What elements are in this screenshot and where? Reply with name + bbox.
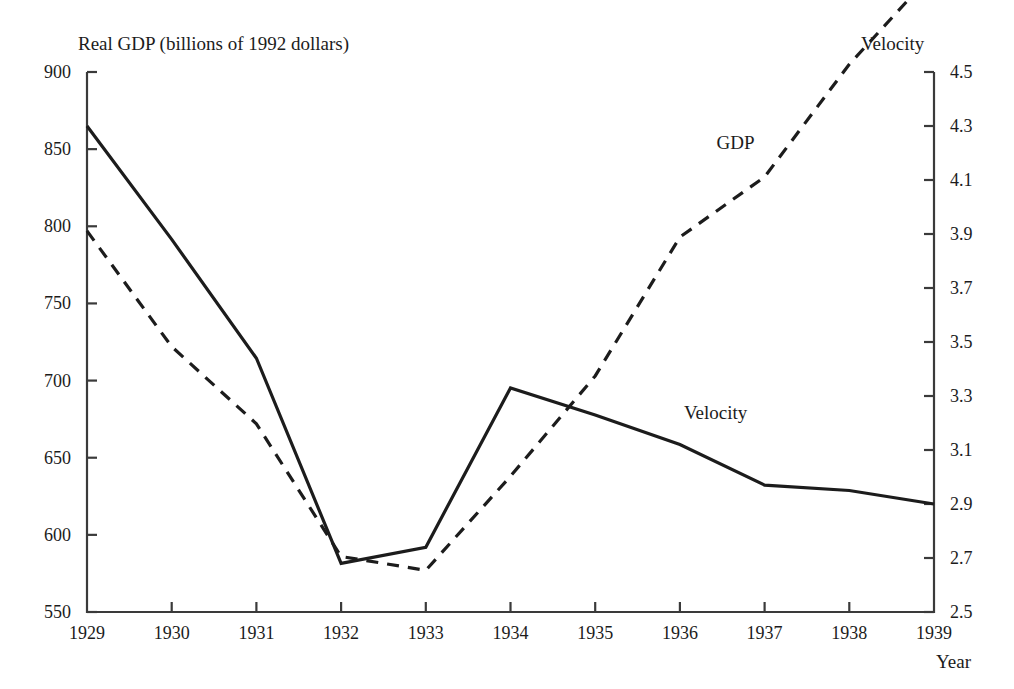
right-axis-tick-label: 2.9 <box>950 495 973 513</box>
left-axis-tick-label: 850 <box>0 140 71 158</box>
left-axis-tick-label: 900 <box>0 63 71 81</box>
plot-canvas <box>0 0 1014 689</box>
right-axis-tick-label: 3.5 <box>950 333 973 351</box>
series-line-gdp <box>87 0 934 570</box>
x-axis-tick-label: 1929 <box>69 624 105 642</box>
left-axis-ticks <box>87 72 97 612</box>
x-axis-tick-label: 1936 <box>662 624 698 642</box>
x-axis-tick-label: 1938 <box>831 624 867 642</box>
series-annotation-velocity: Velocity <box>684 403 747 422</box>
x-axis-tick-label: 1931 <box>238 624 274 642</box>
x-axis-title: Year <box>936 652 971 671</box>
x-axis-tick-label: 1932 <box>323 624 359 642</box>
x-axis-tick-label: 1935 <box>577 624 613 642</box>
left-axis-tick-label: 600 <box>0 526 71 544</box>
left-axis-tick-label: 700 <box>0 372 71 390</box>
right-axis-tick-label: 3.1 <box>950 441 973 459</box>
x-axis-tick-label: 1939 <box>916 624 952 642</box>
right-axis-tick-label: 4.5 <box>950 63 973 81</box>
x-axis-ticks <box>172 602 850 612</box>
series-line-velocity <box>87 126 934 563</box>
right-axis-tick-label: 4.3 <box>950 117 973 135</box>
right-axis-tick-label: 2.5 <box>950 603 973 621</box>
axis-frame <box>87 72 934 612</box>
x-axis-tick-label: 1937 <box>747 624 783 642</box>
left-axis-tick-label: 800 <box>0 217 71 235</box>
left-axis-tick-label: 750 <box>0 294 71 312</box>
x-axis-tick-label: 1934 <box>493 624 529 642</box>
chart-figure: Real GDP (billions of 1992 dollars) Velo… <box>0 0 1014 689</box>
right-axis-tick-label: 2.7 <box>950 549 973 567</box>
x-axis-tick-label: 1933 <box>408 624 444 642</box>
x-axis-tick-label: 1930 <box>154 624 190 642</box>
right-axis-ticks <box>924 72 934 612</box>
right-axis-title: Velocity <box>861 34 924 53</box>
left-axis-tick-label: 550 <box>0 603 71 621</box>
right-axis-tick-label: 3.3 <box>950 387 973 405</box>
left-axis-tick-label: 650 <box>0 449 71 467</box>
left-axis-title: Real GDP (billions of 1992 dollars) <box>78 34 349 53</box>
right-axis-tick-label: 4.1 <box>950 171 973 189</box>
right-axis-tick-label: 3.7 <box>950 279 973 297</box>
series-annotation-gdp: GDP <box>717 133 755 152</box>
right-axis-tick-label: 3.9 <box>950 225 973 243</box>
